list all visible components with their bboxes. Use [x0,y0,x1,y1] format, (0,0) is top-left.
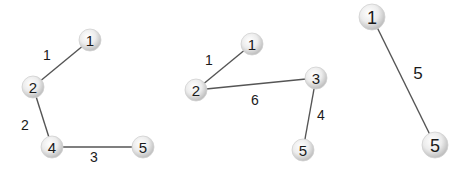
node-label: 5 [299,142,307,159]
edge-weight-label: 1 [43,47,51,63]
graph-3-edges [372,17,435,145]
node-label: 5 [139,139,147,156]
node-label: 1 [367,8,377,28]
node-5: 5 [422,132,448,158]
node-5: 5 [132,136,154,158]
node-label: 3 [312,70,320,87]
node-label: 1 [86,32,94,49]
node-label: 2 [192,82,200,99]
node-3: 3 [305,67,327,89]
edge-weight-label: 5 [413,64,422,83]
node-2: 2 [185,79,207,101]
node-2: 2 [22,76,44,98]
edge-weight-label: 2 [21,117,29,133]
edge-weight-label: 1 [205,52,213,68]
edge-1-5 [372,17,435,145]
edge-2-3 [196,78,316,90]
node-5: 5 [292,139,314,161]
node-1: 1 [359,4,385,30]
node-4: 4 [41,136,63,158]
node-1: 1 [79,29,101,51]
edge-weight-label: 6 [251,92,259,108]
nodes-layer: 1245123515 [22,4,448,161]
node-label: 1 [248,36,256,53]
edge-weight-label: 4 [317,107,325,123]
node-label: 2 [29,79,37,96]
edge-weight-label: 3 [90,149,98,165]
node-label: 5 [430,136,440,156]
node-label: 4 [48,139,56,156]
graph-diagram: 1231645 1245123515 [0,0,465,169]
node-1: 1 [241,33,263,55]
